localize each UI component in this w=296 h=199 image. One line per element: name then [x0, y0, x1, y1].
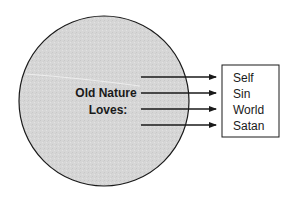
target-label-world: World — [233, 103, 264, 117]
diagram-canvas: Old Nature Loves: Self Sin World Satan — [0, 0, 296, 199]
circle-label-line-2: Loves: — [89, 103, 128, 117]
target-label-self: Self — [233, 71, 254, 85]
circle-label-line-1: Old Nature — [75, 86, 137, 100]
target-label-sin: Sin — [233, 87, 250, 101]
target-label-satan: Satan — [233, 119, 264, 133]
circle-shape — [19, 16, 189, 186]
old-nature-circle — [19, 16, 189, 186]
